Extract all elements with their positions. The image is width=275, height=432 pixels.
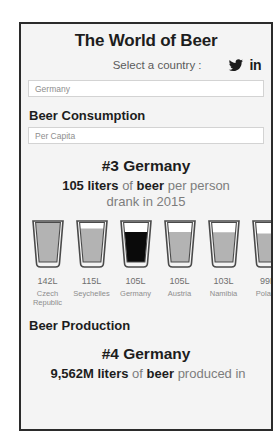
consumption-metric-value: Per Capita <box>35 131 75 141</box>
chart-country-labels: Czech RepublicSeychellesGermanyAustriaNa… <box>21 286 271 308</box>
twitter-icon[interactable] <box>228 59 243 72</box>
chart-value-labels: 142L115L105L105L103L99L <box>21 273 271 286</box>
select-country-label: Select a country : <box>113 59 202 71</box>
chart-country-label: Poland <box>247 286 271 308</box>
chart-value-label: 105L <box>159 273 200 286</box>
chart-value-label: 99L <box>247 273 271 286</box>
consumption-amount: 105 liters <box>62 178 118 193</box>
chart-country-label: Seychelles <box>71 286 112 308</box>
consumption-rank: #3 Germany <box>21 157 271 175</box>
production-suffix: produced in <box>174 366 246 381</box>
country-select-value: Germany <box>35 84 70 94</box>
chart-country-label: Germany <box>115 286 156 308</box>
chart-country-label: Namibia <box>203 286 244 308</box>
social-links: in <box>228 58 261 72</box>
glass-bar[interactable] <box>71 219 112 273</box>
consumption-metric-input[interactable]: Per Capita <box>28 127 264 144</box>
production-mid: of <box>128 366 146 381</box>
select-country-row: Select a country : in <box>21 53 271 76</box>
chart-value-label: 105L <box>115 273 156 286</box>
production-amount: 9,562M liters <box>50 366 128 381</box>
linkedin-icon[interactable]: in <box>250 58 261 72</box>
consumption-stat-line1: 105 liters of beer per person <box>21 178 271 194</box>
chart-value-label: 115L <box>71 273 112 286</box>
chart-country-label: Czech Republic <box>27 286 68 308</box>
page-title: The World of Beer <box>21 24 271 53</box>
beer-consumption-heading: Beer Consumption <box>29 108 271 123</box>
production-rank: #4 Germany <box>21 345 271 363</box>
consumption-mid: of <box>119 178 137 193</box>
consumption-suffix: per person <box>164 178 230 193</box>
app-inner: The World of Beer Select a country : in … <box>21 24 271 429</box>
glass-bar[interactable] <box>115 219 156 273</box>
production-beer-word: beer <box>147 366 174 381</box>
consumption-stat-line2: drank in 2015 <box>21 194 271 210</box>
production-stat-line: 9,562M liters of beer produced in <box>21 366 271 381</box>
chart-country-label: Austria <box>159 286 200 308</box>
beer-production-heading: Beer Production <box>29 318 271 333</box>
consumption-beer-word: beer <box>137 178 164 193</box>
chart-value-label: 142L <box>27 273 68 286</box>
glass-bar[interactable] <box>27 219 68 273</box>
app-frame: The World of Beer Select a country : in … <box>19 22 273 431</box>
glass-bar[interactable] <box>159 219 200 273</box>
chart-value-label: 103L <box>203 273 244 286</box>
country-select-input[interactable]: Germany <box>28 80 264 97</box>
glass-bar[interactable] <box>203 219 244 273</box>
glass-bar[interactable] <box>247 219 271 273</box>
beer-glass-chart <box>21 219 271 273</box>
